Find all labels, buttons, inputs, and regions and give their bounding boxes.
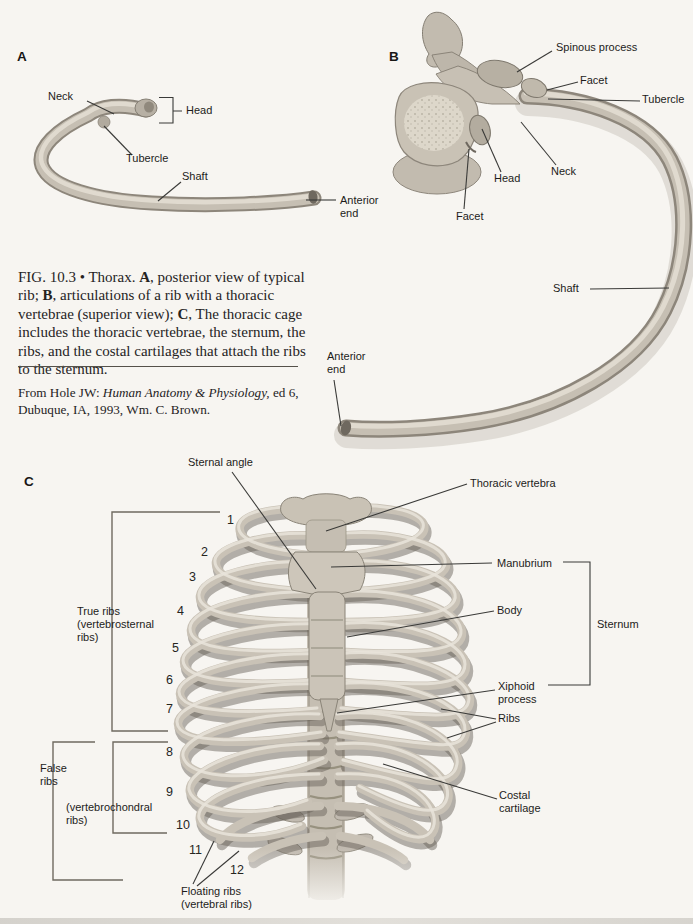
- rib-number-3: 3: [189, 570, 196, 584]
- label-anterior-end-a: Anterior end: [340, 194, 379, 220]
- scan-edge-artifact: [0, 918, 693, 924]
- label-floating-ribs: Floating ribs (vertebral ribs): [181, 885, 252, 911]
- label-sternum: Sternum: [597, 618, 639, 631]
- label-facet-lower-b: Facet: [456, 210, 484, 223]
- label-head-b: Head: [494, 172, 520, 185]
- rib-number-4: 4: [177, 604, 184, 618]
- label-shaft-a: Shaft: [182, 170, 208, 183]
- rib-number-9: 9: [166, 785, 173, 799]
- label-tubercle-a: Tubercle: [126, 152, 168, 165]
- panel-b-tag: B: [389, 49, 399, 64]
- label-neck-b: Neck: [551, 165, 576, 178]
- panel-b-vertebra-rib-illustration: [339, 12, 684, 436]
- figure-artwork: [0, 0, 693, 924]
- panel-a-rib-illustration: [41, 99, 318, 205]
- rib-number-1: 1: [227, 513, 234, 527]
- label-thoracic-vertebra: Thoracic vertebra: [470, 477, 556, 490]
- label-false-ribs: False ribs: [40, 762, 67, 788]
- rib-number-2: 2: [201, 545, 208, 559]
- label-xiphoid-process: Xiphoid process: [498, 680, 537, 706]
- label-body: Body: [497, 604, 522, 617]
- rib-number-8: 8: [166, 745, 173, 759]
- panel-c-tag: C: [24, 474, 34, 489]
- label-facet-upper-b: Facet: [580, 74, 608, 87]
- label-manubrium: Manubrium: [497, 557, 552, 570]
- label-sternal-angle: Sternal angle: [188, 456, 253, 469]
- label-head-a: Head: [186, 104, 212, 117]
- panel-a-tag: A: [17, 49, 27, 64]
- figure-caption: FIG. 10.3 • Thorax. A, posterior view of…: [18, 268, 308, 378]
- rib-number-12: 12: [230, 863, 244, 877]
- label-neck-a: Neck: [48, 90, 73, 103]
- label-shaft-b: Shaft: [553, 282, 579, 295]
- label-ribs: Ribs: [498, 712, 520, 725]
- textbook-figure-page: A B C Neck Head Tubercle Shaft Anterior …: [0, 0, 693, 924]
- rib-number-6: 6: [166, 673, 173, 687]
- rib-number-11: 11: [189, 843, 202, 857]
- label-tubercle-b: Tubercle: [642, 93, 684, 106]
- rib-number-5: 5: [172, 641, 179, 655]
- figure-source-credit: From Hole JW: Human Anatomy & Physiology…: [18, 385, 308, 418]
- rib-number-10: 10: [176, 818, 190, 832]
- label-anterior-end-b: Anterior end: [327, 350, 366, 376]
- panel-c-thoracic-cage-illustration: [177, 494, 472, 910]
- label-spinous-process-b: Spinous process: [556, 41, 637, 54]
- caption-divider: [18, 366, 298, 367]
- rib-number-7: 7: [166, 702, 173, 716]
- label-costal-cartilage: Costal cartilage: [499, 789, 541, 815]
- label-vertebrochondral-ribs: (vertebrochondral ribs): [66, 801, 152, 827]
- label-true-ribs: True ribs (vertebrosternal ribs): [77, 605, 154, 645]
